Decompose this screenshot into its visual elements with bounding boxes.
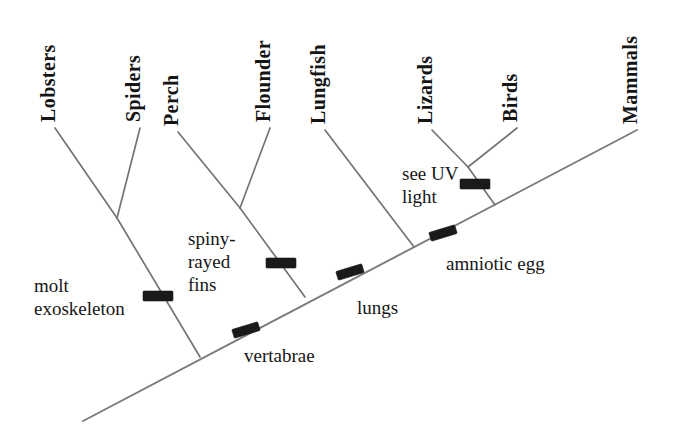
trait-label-molt-exoskeleton: moltexoskeleton	[34, 275, 125, 319]
taxon-label-birds: Birds	[499, 73, 521, 122]
rayfin-stem	[240, 208, 305, 297]
cladogram-canvas: LobstersSpidersPerchFlounderLungfishLiza…	[0, 0, 677, 438]
tick-mark-molt-exoskeleton	[143, 291, 173, 301]
trait-label-spiny-rayed-fins-line1: spiny-	[188, 228, 236, 249]
trait-label-vertabrae-line1: vertabrae	[244, 345, 315, 366]
lungfish-branch	[325, 130, 414, 247]
trait-label-see-uv-light: see UVlight	[402, 163, 459, 207]
taxon-label-perch: Perch	[160, 74, 182, 126]
trait-label-molt-exoskeleton-line2: exoskeleton	[34, 298, 125, 319]
trait-label-spiny-rayed-fins-line3: fins	[188, 274, 217, 295]
trait-label-see-uv-light-line2: light	[402, 186, 438, 207]
taxon-label-mammals: Mammals	[619, 36, 641, 124]
tick-mark-spiny-rayed-fins	[266, 258, 296, 268]
trait-label-see-uv-light-line1: see UV	[402, 163, 459, 184]
trait-label-amniotic-egg: amniotic egg	[446, 253, 545, 274]
taxon-label-flounder: Flounder	[252, 40, 274, 122]
lobsters-branch	[55, 128, 117, 218]
trait-label-spiny-rayed-fins-line2: rayed	[188, 251, 231, 272]
taxon-label-lizards: Lizards	[414, 56, 436, 124]
cladogram-figure: LobstersSpidersPerchFlounderLungfishLiza…	[0, 0, 677, 438]
taxon-label-lobsters: Lobsters	[37, 44, 59, 122]
lizards-branch	[432, 130, 468, 167]
trait-label-amniotic-egg-line1: amniotic egg	[446, 253, 545, 274]
trait-label-spiny-rayed-fins: spiny-rayedfins	[188, 228, 236, 295]
trait-label-molt-exoskeleton-line1: molt	[34, 275, 70, 296]
birds-branch	[468, 128, 517, 167]
tick-mark-see-uv-light	[460, 179, 490, 189]
taxon-label-lungfish: Lungfish	[307, 44, 330, 124]
taxon-label-layer: LobstersSpidersPerchFlounderLungfishLiza…	[37, 36, 641, 126]
tick-mark-lungs	[336, 264, 364, 281]
flounder-branch	[240, 128, 270, 208]
perch-branch	[178, 132, 240, 208]
trait-label-lungs: lungs	[357, 297, 398, 318]
trunk-layer	[83, 130, 637, 421]
trait-label-lungs-line1: lungs	[357, 297, 398, 318]
trait-label-vertabrae: vertabrae	[244, 345, 315, 366]
spiders-branch	[117, 128, 140, 218]
tick-mark-amniotic-egg	[429, 225, 457, 242]
taxon-label-spiders: Spiders	[122, 55, 145, 122]
main-trunk	[83, 130, 637, 421]
